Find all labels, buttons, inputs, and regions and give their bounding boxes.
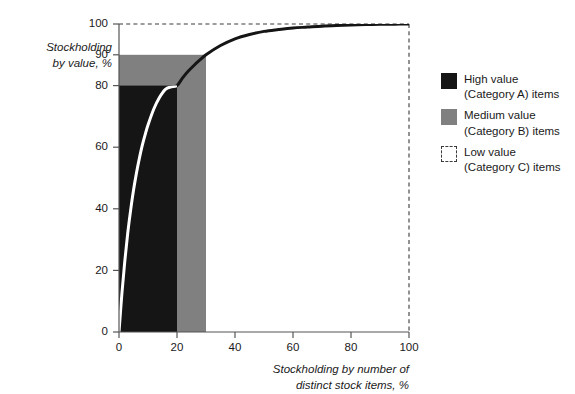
y-tick-label-80: 80 [68, 80, 108, 92]
filled-grey-swatch-icon [441, 109, 457, 125]
chart-legend: High value (Category A) items Medium val… [441, 72, 571, 181]
legend-item-label: Low value (Category C) items [464, 145, 561, 175]
filled-black-swatch-icon [441, 73, 457, 89]
y-tick-label-100: 100 [68, 18, 108, 30]
dashed-outline-swatch-icon [441, 146, 457, 162]
y-axis-title: Stockholding by value, % [8, 40, 112, 71]
x-tick-label-40: 40 [215, 342, 255, 354]
pareto-chart-figure: 100 90 80 60 40 20 0 0 20 40 60 80 100 S… [0, 0, 575, 394]
legend-item-label: Medium value (Category B) items [464, 108, 560, 138]
legend-item-label: High value (Category A) items [464, 72, 559, 102]
y-tick-label-0: 0 [68, 326, 108, 338]
x-axis-ticks [119, 332, 409, 338]
legend-item-medium-value: Medium value (Category B) items [441, 108, 571, 138]
legend-item-high-value: High value (Category A) items [441, 72, 571, 102]
y-tick-label-60: 60 [68, 141, 108, 153]
x-tick-label-0: 0 [99, 342, 139, 354]
y-axis-ticks [113, 24, 119, 332]
y-tick-label-40: 40 [68, 203, 108, 215]
x-tick-label-60: 60 [273, 342, 313, 354]
x-tick-label-100: 100 [389, 342, 429, 354]
legend-item-low-value: Low value (Category C) items [441, 145, 571, 175]
y-tick-label-20: 20 [68, 265, 108, 277]
x-axis-title: Stockholding by number of distinct stock… [209, 362, 409, 393]
x-tick-label-80: 80 [331, 342, 371, 354]
x-tick-label-20: 20 [157, 342, 197, 354]
